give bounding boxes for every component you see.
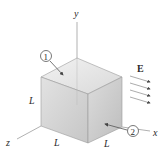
edge-length-label-front: L [53, 137, 60, 148]
face-marker-1-label: 1 [44, 52, 49, 62]
field-label: E [137, 63, 144, 74]
field-arrows [130, 76, 150, 103]
face-marker-2-label: 2 [131, 127, 136, 137]
x-axis-label: x [152, 127, 158, 138]
cube-flux-diagram: x z y L L L 1 2 E [0, 0, 167, 151]
electric-field: E [130, 63, 150, 103]
edge-length-label-right: L [103, 138, 110, 149]
y-axis-label: y [73, 8, 79, 19]
z-axis-label: z [5, 137, 10, 148]
cube [41, 58, 122, 143]
z-axis: z [5, 126, 41, 148]
edge-length-label-left: L [28, 95, 35, 106]
